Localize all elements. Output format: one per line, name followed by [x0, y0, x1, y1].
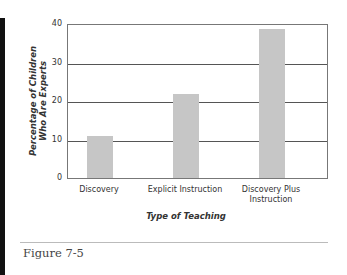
bar [173, 94, 199, 178]
bar [259, 29, 285, 178]
divider [20, 242, 328, 243]
y-axis-label-line-1: Percentage of Children [28, 46, 38, 156]
y-tick-label: 40 [48, 20, 62, 28]
y-tick-label: 30 [48, 59, 62, 67]
y-axis-label-line-2: Who Are Experts [38, 46, 48, 156]
y-tick-label: 10 [48, 136, 62, 144]
y-axis-label: Percentage of Children Who Are Experts [28, 46, 48, 156]
gridline [68, 64, 327, 65]
bar [87, 136, 113, 178]
x-category-label: Discovery [49, 185, 149, 195]
x-category-label: Explicit Instruction [135, 185, 235, 195]
page-edge [0, 18, 5, 275]
y-tick-label: 0 [48, 174, 62, 182]
x-axis-label: Type of Teaching [146, 211, 226, 221]
plot-area [67, 24, 328, 179]
figure-caption: Figure 7-5 [23, 246, 84, 260]
y-tick-label: 20 [48, 97, 62, 105]
x-category-label: Discovery PlusInstruction [221, 185, 321, 205]
